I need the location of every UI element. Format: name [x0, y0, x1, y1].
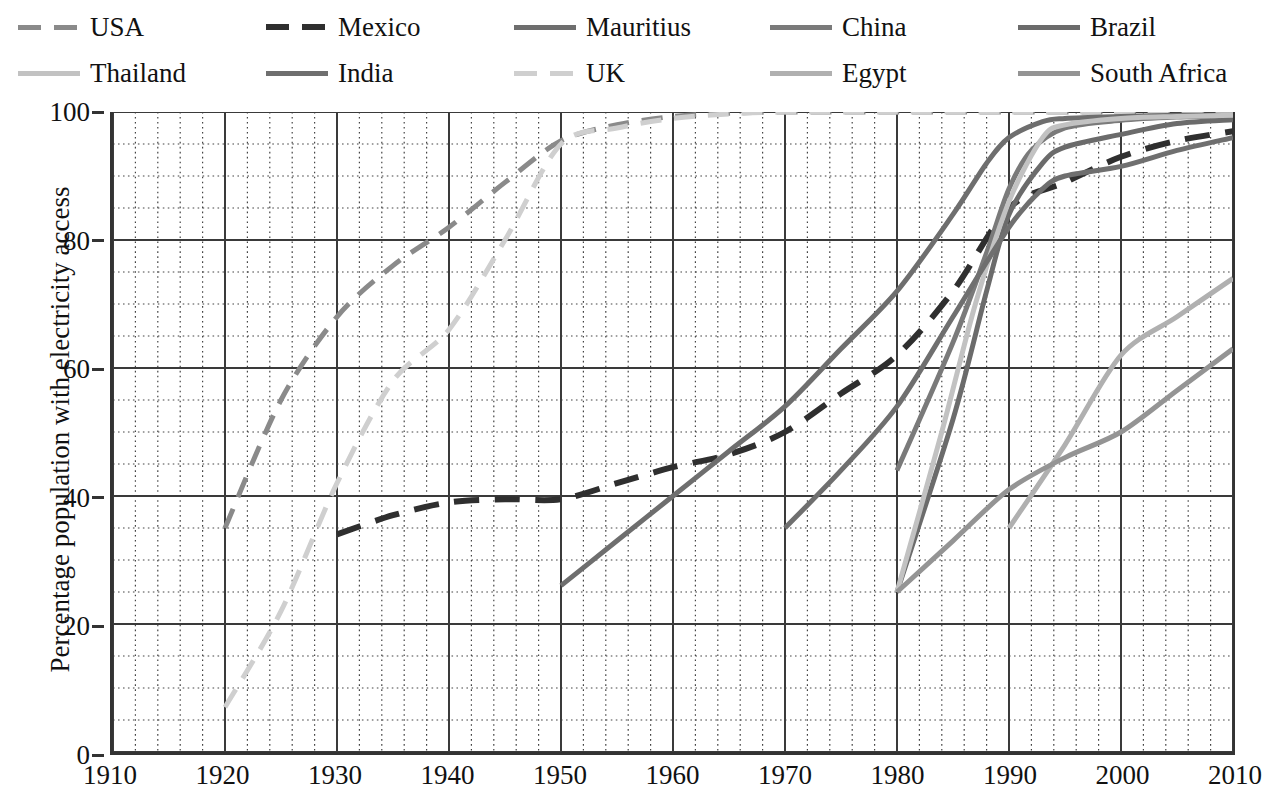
legend-line-swatch [514, 25, 576, 30]
legend-line-swatch [18, 25, 80, 30]
legend-row-1: USAMexicoMauritiusChinaBrazil [18, 4, 1258, 50]
legend-line-swatch [770, 71, 832, 76]
legend-label: Mauritius [586, 12, 691, 42]
plot-area [110, 112, 1235, 755]
legend-line-swatch [1018, 25, 1080, 30]
legend-label: Brazil [1090, 12, 1156, 42]
legend-line-swatch [266, 71, 328, 76]
x-axis-tick-labels: 1910192019301940195019601970198019902000… [110, 760, 1235, 802]
legend-item-usa[interactable]: USA [18, 12, 144, 42]
y-tick-mark [92, 625, 104, 628]
legend-label: Mexico [338, 12, 420, 42]
x-tick-label: 1910 [83, 760, 137, 790]
legend-item-south-africa[interactable]: South Africa [1018, 58, 1227, 88]
legend-item-thailand[interactable]: Thailand [18, 58, 186, 88]
legend-line-swatch [18, 71, 80, 76]
legend-item-mauritius[interactable]: Mauritius [514, 12, 691, 42]
y-tick-mark [92, 754, 104, 757]
legend-label: Thailand [90, 58, 186, 88]
y-tick-mark [92, 111, 104, 114]
series-group [225, 112, 1233, 707]
x-tick-label: 1930 [308, 760, 362, 790]
series-line-south-africa [897, 349, 1233, 592]
y-tick-mark [92, 496, 104, 499]
x-tick-label: 2000 [1096, 760, 1150, 790]
legend-item-brazil[interactable]: Brazil [1018, 12, 1156, 42]
y-tick-label: 60 [63, 356, 90, 383]
chart-canvas [113, 112, 1233, 752]
legend-item-egypt[interactable]: Egypt [770, 58, 907, 88]
series-line-uk [225, 112, 1233, 707]
x-tick-label: 1980 [871, 760, 925, 790]
legend-label: UK [586, 58, 625, 88]
legend-line-swatch [770, 25, 832, 30]
x-tick-label: 1920 [196, 760, 250, 790]
x-tick-label: 1950 [533, 760, 587, 790]
legend-item-china[interactable]: China [770, 12, 907, 42]
y-tick-label: 20 [63, 613, 90, 640]
y-axis-tick-labels: 020406080100 [0, 112, 104, 755]
y-tick-mark [92, 368, 104, 371]
x-tick-label: 1970 [758, 760, 812, 790]
legend-label: India [338, 58, 393, 88]
plot-wrapper: Percentage population with electricity a… [0, 96, 1258, 806]
legend-label: USA [90, 12, 144, 42]
y-tick-label: 40 [63, 484, 90, 511]
legend-line-swatch [514, 71, 576, 76]
y-tick-mark [92, 239, 104, 242]
x-tick-label: 1940 [421, 760, 475, 790]
x-tick-label: 2010 [1208, 760, 1262, 790]
legend-label: Egypt [842, 58, 907, 88]
legend-label: China [842, 12, 907, 42]
legend-line-swatch [266, 25, 328, 30]
legend-label: South Africa [1090, 58, 1227, 88]
y-tick-label: 100 [50, 99, 91, 126]
legend-line-swatch [1018, 71, 1080, 76]
x-tick-label: 1960 [646, 760, 700, 790]
legend-row-2: ThailandIndiaUKEgyptSouth Africa [18, 50, 1258, 96]
x-tick-label: 1990 [983, 760, 1037, 790]
legend-item-india[interactable]: India [266, 58, 393, 88]
legend-item-uk[interactable]: UK [514, 58, 625, 88]
legend-item-mexico[interactable]: Mexico [266, 12, 420, 42]
chart-legend: USAMexicoMauritiusChinaBrazil ThailandIn… [18, 4, 1258, 96]
y-tick-label: 80 [63, 227, 90, 254]
